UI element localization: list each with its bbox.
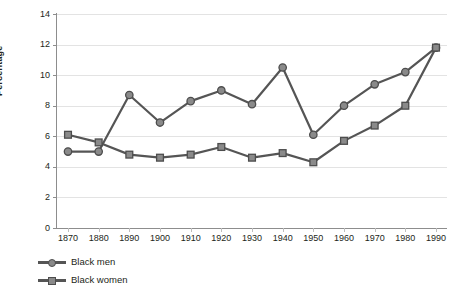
data-point-circle-icon xyxy=(156,119,163,126)
legend-marker-circle-icon xyxy=(38,256,66,268)
y-tick-mark xyxy=(53,228,57,229)
data-point-circle-icon xyxy=(64,148,71,155)
data-point-circle-icon xyxy=(218,87,225,94)
data-point-square-icon xyxy=(65,131,72,138)
data-point-circle-icon xyxy=(279,64,286,71)
x-tick-mark xyxy=(375,228,376,232)
data-point-square-icon xyxy=(371,122,378,129)
data-point-square-icon xyxy=(433,44,440,51)
x-tick-mark xyxy=(129,228,130,232)
data-point-square-icon xyxy=(126,151,133,158)
data-point-square-icon xyxy=(187,151,194,158)
data-point-circle-icon xyxy=(95,148,102,155)
chart-root: Percentage 02468101214 18701880189019001… xyxy=(0,0,460,296)
data-point-square-icon xyxy=(95,139,102,146)
x-tick-mark xyxy=(313,228,314,232)
data-point-circle-icon xyxy=(310,131,317,138)
data-point-circle-icon xyxy=(371,81,378,88)
x-tick-mark xyxy=(221,228,222,232)
data-point-square-icon xyxy=(218,144,225,151)
y-tick-label: 12 xyxy=(24,40,50,49)
data-point-circle-icon xyxy=(126,91,133,98)
data-point-square-icon xyxy=(157,154,164,161)
x-tick-mark xyxy=(252,228,253,232)
data-point-square-icon xyxy=(310,159,317,166)
series-layer xyxy=(57,14,447,228)
data-point-square-icon xyxy=(279,150,286,157)
data-point-circle-icon xyxy=(402,68,409,75)
y-tick-label: 10 xyxy=(24,71,50,80)
legend-label-black-women: Black women xyxy=(71,275,128,285)
plot-area xyxy=(57,14,447,228)
legend-label-black-men: Black men xyxy=(71,257,115,267)
data-point-circle-icon xyxy=(248,100,255,107)
y-tick-label: 6 xyxy=(24,132,50,141)
x-tick-mark xyxy=(68,228,69,232)
x-tick-mark xyxy=(283,228,284,232)
x-tick-mark xyxy=(191,228,192,232)
x-tick-mark xyxy=(436,228,437,232)
legend-marker-square-icon xyxy=(38,274,66,286)
data-point-square-icon xyxy=(249,154,256,161)
series-line xyxy=(68,48,436,152)
legend-item-black-women: Black women xyxy=(38,271,128,289)
data-point-square-icon xyxy=(402,102,409,109)
x-tick-mark xyxy=(344,228,345,232)
x-tick-label: 1990 xyxy=(416,233,456,243)
y-tick-label: 8 xyxy=(24,101,50,110)
data-point-circle-icon xyxy=(187,97,194,104)
x-tick-mark xyxy=(405,228,406,232)
data-point-square-icon xyxy=(341,137,348,144)
y-tick-label: 2 xyxy=(24,193,50,202)
y-axis-title: Percentage xyxy=(0,45,4,96)
x-tick-mark xyxy=(160,228,161,232)
legend-item-black-men: Black men xyxy=(38,253,128,271)
data-point-circle-icon xyxy=(340,102,347,109)
chart-legend: Black men Black women xyxy=(38,253,128,289)
y-tick-label: 14 xyxy=(24,10,50,19)
x-tick-mark xyxy=(99,228,100,232)
y-tick-label: 4 xyxy=(24,162,50,171)
y-tick-label: 0 xyxy=(24,224,50,233)
